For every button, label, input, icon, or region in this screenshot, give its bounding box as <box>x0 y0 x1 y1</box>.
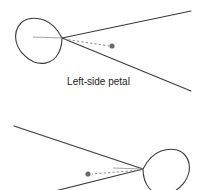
bottom-center-dot <box>85 171 90 176</box>
diagram-canvas <box>0 0 197 190</box>
top-center-dot <box>109 43 114 48</box>
bottom-petal-center-line <box>113 168 143 169</box>
top-upper-ray <box>62 11 191 38</box>
bottom-lower-ray <box>55 169 143 190</box>
bottom-petal-outline <box>143 149 189 190</box>
petal-diagram-figure: Left-side petal <box>0 0 197 190</box>
top-panel-caption: Left-side petal <box>0 76 197 88</box>
bottom-panel-group <box>14 126 189 190</box>
top-petal-outline <box>16 18 62 63</box>
top-dashed-connector <box>64 39 109 46</box>
bottom-dashed-connector <box>92 170 141 174</box>
bottom-upper-ray <box>14 126 143 169</box>
